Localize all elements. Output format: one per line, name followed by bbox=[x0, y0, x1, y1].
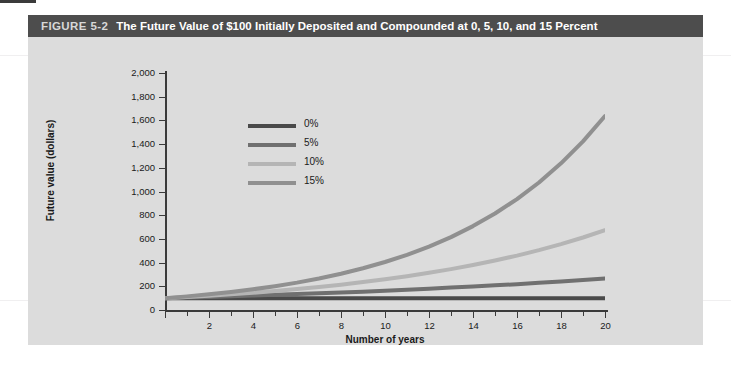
x-axis-tick bbox=[165, 312, 166, 318]
x-axis-tick: 6 bbox=[297, 312, 298, 318]
x-axis-tick: 8 bbox=[341, 312, 342, 318]
y-axis-tick-label: 600 bbox=[139, 233, 155, 244]
x-axis-tick: 10 bbox=[385, 312, 386, 318]
x-axis-minor-tick bbox=[319, 312, 320, 316]
page-top-rule bbox=[0, 0, 36, 3]
series-line-15pct bbox=[165, 116, 605, 298]
legend-label: 5% bbox=[304, 137, 318, 148]
x-axis-tick-label: 4 bbox=[251, 320, 256, 331]
y-axis-title: Future value (dollars) bbox=[45, 111, 56, 231]
legend-swatch bbox=[248, 124, 296, 128]
legend-label: 0% bbox=[304, 118, 318, 129]
x-axis-tick-label: 18 bbox=[556, 320, 567, 331]
x-axis-tick-label: 14 bbox=[468, 320, 479, 331]
x-axis-tick: 12 bbox=[429, 312, 430, 318]
series-curves bbox=[165, 73, 605, 310]
y-axis-tick-label: 1,200 bbox=[131, 162, 155, 173]
y-axis-tick-label: 2,000 bbox=[131, 67, 155, 78]
x-axis-minor-tick bbox=[231, 312, 232, 316]
y-axis-tick-label: 200 bbox=[139, 280, 155, 291]
figure-title: The Future Value of $100 Initially Depos… bbox=[116, 20, 597, 32]
y-axis-tick-label: 800 bbox=[139, 209, 155, 220]
x-axis-tick-label: 8 bbox=[339, 320, 344, 331]
y-axis-tick: 0 bbox=[159, 310, 165, 311]
legend-item: 15% bbox=[248, 175, 353, 194]
x-axis-tick: 2 bbox=[209, 312, 210, 318]
chart-area: Future value (dollars) Number of years 0… bbox=[28, 37, 703, 345]
x-axis-tick: 20 bbox=[605, 312, 606, 318]
x-axis-minor-tick bbox=[275, 312, 276, 316]
legend-swatch bbox=[248, 162, 296, 166]
y-axis-tick-label: 1,400 bbox=[131, 138, 155, 149]
legend-item: 0% bbox=[248, 118, 353, 137]
y-axis-tick-label: 1,000 bbox=[131, 186, 155, 197]
x-axis-tick-label: 6 bbox=[295, 320, 300, 331]
legend-label: 15% bbox=[304, 175, 324, 186]
legend-swatch bbox=[248, 181, 296, 185]
legend-swatch bbox=[248, 143, 296, 147]
legend-item: 5% bbox=[248, 137, 353, 156]
x-axis-tick: 4 bbox=[253, 312, 254, 318]
series-line-10pct bbox=[165, 230, 605, 298]
x-axis-tick: 14 bbox=[473, 312, 474, 318]
y-axis-tick-label: 400 bbox=[139, 257, 155, 268]
x-axis-minor-tick bbox=[495, 312, 496, 316]
x-axis-minor-tick bbox=[407, 312, 408, 316]
figure-panel: FIGURE 5-2 The Future Value of $100 Init… bbox=[28, 15, 703, 345]
x-axis-tick-label: 16 bbox=[512, 320, 523, 331]
x-axis-minor-tick bbox=[451, 312, 452, 316]
x-axis-minor-tick bbox=[539, 312, 540, 316]
chart-legend: 0%5%10%15% bbox=[248, 118, 353, 194]
legend-item: 10% bbox=[248, 156, 353, 175]
x-axis-title: Number of years bbox=[165, 334, 605, 345]
plot-area bbox=[165, 73, 605, 310]
x-axis-tick: 16 bbox=[517, 312, 518, 318]
y-axis-tick-label: 0 bbox=[150, 304, 155, 315]
x-axis-minor-tick bbox=[363, 312, 364, 316]
x-axis-tick-label: 20 bbox=[600, 320, 611, 331]
x-axis-minor-tick bbox=[187, 312, 188, 316]
y-axis-tick-label: 1,800 bbox=[131, 91, 155, 102]
figure-number: FIGURE 5-2 bbox=[41, 20, 108, 32]
figure-caption-bar: FIGURE 5-2 The Future Value of $100 Init… bbox=[28, 15, 703, 37]
x-axis-tick-label: 2 bbox=[207, 320, 212, 331]
legend-label: 10% bbox=[304, 156, 324, 167]
x-axis-tick-label: 10 bbox=[380, 320, 391, 331]
x-axis-tick: 18 bbox=[561, 312, 562, 318]
x-axis-tick-label: 12 bbox=[424, 320, 435, 331]
y-axis-tick-label: 1,600 bbox=[131, 114, 155, 125]
x-axis-minor-tick bbox=[583, 312, 584, 316]
